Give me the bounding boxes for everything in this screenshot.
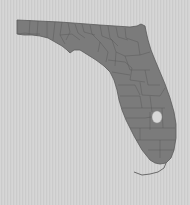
florida-keys [134, 163, 166, 175]
florida-map [0, 0, 190, 205]
florida-state-shape [17, 20, 176, 164]
map-frame [0, 0, 190, 205]
lake-okeechobee [152, 111, 162, 123]
